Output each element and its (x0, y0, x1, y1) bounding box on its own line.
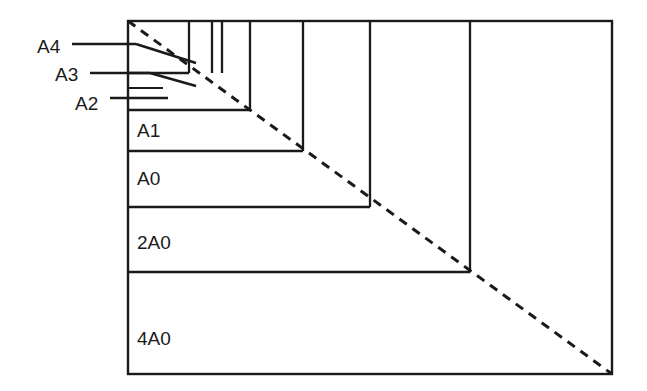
a3-leader-seg-1 (150, 73, 196, 86)
paper-size-diagram: A1 A0 2A0 4A0 A4 A3 A2 (0, 0, 647, 391)
a4-leader-seg-1 (136, 44, 196, 63)
horizontal-divider-group (128, 73, 470, 272)
callout-leader-group (72, 44, 196, 98)
callout-label-a3: A3 (55, 64, 78, 85)
cell-label-2a0: 2A0 (137, 232, 171, 253)
diagram-canvas: A1 A0 2A0 4A0 A4 A3 A2 (0, 0, 647, 391)
callout-label-a4: A4 (37, 36, 61, 57)
vertical-divider-group (189, 21, 470, 272)
a3-leader (90, 73, 196, 86)
a4-leader (72, 44, 196, 63)
callout-label-a2: A2 (75, 93, 98, 114)
cell-label-a0: A0 (137, 168, 160, 189)
cell-label-a1: A1 (137, 120, 160, 141)
cell-label-4a0: 4A0 (137, 328, 171, 349)
